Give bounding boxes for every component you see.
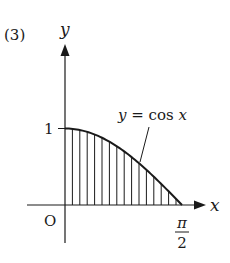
x-tick-numerator: π <box>176 214 188 232</box>
curve-label: y = cos x <box>117 106 188 124</box>
cosine-curve <box>65 129 182 206</box>
x-tick-denominator: 2 <box>177 234 187 252</box>
origin-label: O <box>44 212 56 230</box>
problem-number: (3) <box>4 26 25 44</box>
x-axis-label: x <box>210 195 220 215</box>
y-axis-label: y <box>59 19 70 39</box>
cosine-area-diagram: (3) y x O 1 π 2 y = cos x <box>0 0 230 263</box>
curve-label-leader <box>140 127 149 162</box>
y-tick-label: 1 <box>44 120 54 138</box>
y-axis-arrow-icon <box>61 44 70 56</box>
x-axis-arrow-icon <box>194 201 206 210</box>
shaded-region-hatching <box>72 129 176 205</box>
